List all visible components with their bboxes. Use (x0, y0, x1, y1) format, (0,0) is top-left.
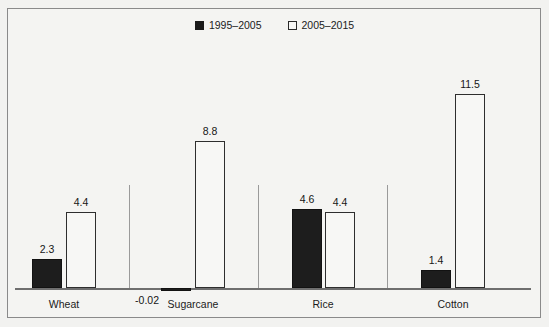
category-label-rice: Rice (285, 298, 361, 310)
bar-wheat-1995-2005[interactable] (32, 259, 62, 288)
bar-cotton-2005-2015[interactable] (455, 94, 485, 288)
bar-cotton-1995-2005[interactable] (421, 270, 451, 288)
bar-value-wheat-1995-2005: 2.3 (25, 243, 69, 255)
category-label-sugarcane: Sugarcane (155, 298, 231, 310)
bar-wheat-2005-2015[interactable] (66, 212, 96, 288)
plot-area: 2.3 4.4 Wheat -0.02 8.8 Sugarcane 4.6 4.… (7, 8, 541, 318)
bar-value-cotton-1995-2005: 1.4 (414, 254, 458, 266)
bar-value-cotton-2005-2015: 11.5 (448, 78, 492, 90)
bar-value-sugarcane-2005-2015: 8.8 (188, 125, 232, 137)
bar-rice-2005-2015[interactable] (325, 212, 355, 288)
category-label-wheat: Wheat (26, 298, 102, 310)
bar-value-sugarcane-1995-2005: -0.02 (111, 294, 159, 306)
category-separator (129, 185, 130, 288)
bar-value-wheat-2005-2015: 4.4 (59, 196, 103, 208)
category-separator (258, 185, 259, 288)
bar-sugarcane-2005-2015[interactable] (195, 141, 225, 288)
category-label-cotton: Cotton (415, 298, 491, 310)
bar-sugarcane-1995-2005[interactable] (161, 288, 191, 291)
bar-value-rice-2005-2015: 4.4 (318, 196, 362, 208)
category-separator (387, 185, 388, 288)
bar-chart-figure: 1995–2005 2005–2015 2.3 4.4 Wheat -0.02 … (0, 0, 549, 327)
x-axis-baseline (15, 288, 531, 290)
bar-rice-1995-2005[interactable] (292, 209, 322, 288)
